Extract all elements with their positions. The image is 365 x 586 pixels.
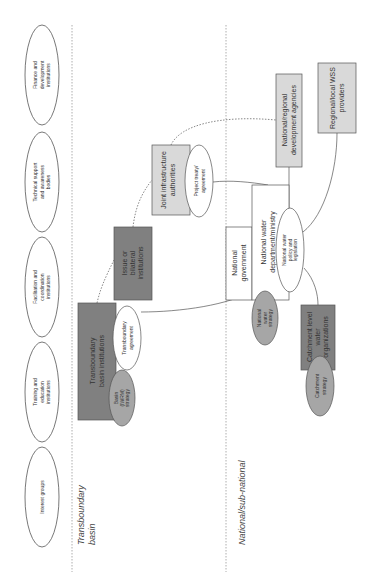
region-label-transboundary: Transboundary basin — [76, 485, 97, 545]
svg-text:water: water — [314, 328, 321, 347]
connector-policy-wss — [303, 133, 337, 232]
stakeholder-text: Interest groups — [39, 480, 45, 514]
stakeholder-facilitation: Facilitation and coordination institutio… — [25, 237, 59, 337]
svg-text:Catchment level: Catchment level — [306, 311, 313, 362]
svg-text:development agencies: development agencies — [290, 84, 298, 155]
node-national-regional-development-agencies: National/regional development agencies — [276, 74, 302, 167]
node-joint-infrastructure-authorities: Joint infrastructure authorities — [152, 145, 190, 215]
stakeholder-text: Facilitation and — [32, 270, 38, 304]
connector-project-dept — [213, 181, 268, 185]
node-catchment-strategy: Catchment strategy — [306, 356, 334, 416]
svg-text:agreement: agreement — [200, 168, 206, 193]
stakeholder-text: institutions — [45, 380, 51, 404]
svg-text:organizations: organizations — [322, 316, 330, 358]
node-national-water-strategy: National water strategy — [252, 291, 278, 345]
svg-text:strategy: strategy — [124, 389, 130, 407]
stakeholder-text: Training and — [32, 378, 38, 406]
stakeholder-text: education — [39, 381, 45, 403]
svg-text:strategy: strategy — [267, 309, 273, 327]
stakeholder-text: Technical support — [32, 162, 38, 202]
stakeholder-text: institutions — [45, 275, 51, 299]
svg-text:department/ministry: department/ministry — [269, 211, 277, 273]
governance-diagram: Finance and development institutions Tec… — [0, 0, 365, 586]
connector-dashed-issue-joint — [133, 180, 152, 227]
svg-text:National/sub-national: National/sub-national — [237, 459, 247, 545]
svg-text:Issue or: Issue or — [121, 250, 128, 276]
svg-text:strategy: strategy — [321, 377, 327, 395]
svg-text:providers: providers — [338, 83, 346, 112]
stakeholder-text: and awareness — [39, 165, 45, 199]
connector-dashed-joint-devagencies — [171, 119, 276, 145]
stakeholder-finance: Finance and development institutions — [25, 25, 59, 125]
svg-text:institutions: institutions — [137, 246, 144, 280]
svg-text:Joint infrastructure: Joint infrastructure — [160, 151, 167, 209]
region-label-national: National/sub-national — [237, 459, 247, 545]
node-basin-iwrm-strategy: Basin (IWRM) strategy — [109, 370, 135, 426]
svg-text:agreement: agreement — [128, 325, 134, 350]
svg-text:Catchment: Catchment — [314, 373, 320, 398]
stakeholder-technical: Technical support and awareness bodies — [25, 132, 59, 232]
node-transboundary-agreement: Transboundary agreement — [113, 306, 141, 370]
svg-text:Transboundary: Transboundary — [121, 321, 127, 355]
stakeholder-text: coordination — [39, 273, 45, 300]
svg-text:National/regional: National/regional — [281, 93, 289, 146]
stakeholder-text: institutions — [45, 63, 51, 87]
svg-text:Regional/local WSS: Regional/local WSS — [329, 67, 337, 129]
svg-text:basin: basin — [87, 523, 97, 545]
svg-text:government: government — [240, 244, 248, 281]
stakeholder-text: Finance and — [32, 61, 38, 89]
svg-text:Project treaty/: Project treaty/ — [193, 165, 199, 196]
node-issue-bilateral-institutions: Issue or bilateral institutions — [114, 227, 152, 300]
connector-policy-catchment — [304, 268, 318, 305]
stakeholder-text: bodies — [45, 174, 51, 189]
stakeholder-training: Training and education institutions — [25, 342, 59, 442]
node-project-treaty-agreement: Project treaty/ agreement — [185, 145, 213, 217]
node-national-water-policy: National water policy and legislation — [276, 208, 304, 292]
connector-dashed-tbi-issue — [97, 260, 114, 303]
svg-text:authorities: authorities — [169, 163, 176, 196]
stakeholder-interest-groups: Interest groups — [25, 447, 59, 547]
svg-text:bilateral: bilateral — [129, 250, 136, 275]
svg-text:Transboundary: Transboundary — [89, 337, 97, 384]
node-national-government: National government — [226, 227, 252, 300]
svg-text:National: National — [231, 250, 238, 276]
svg-text:National water: National water — [260, 219, 267, 264]
svg-text:legislation: legislation — [292, 239, 298, 261]
stakeholder-text: development — [39, 60, 45, 89]
node-regional-local-wss-providers: Regional/local WSS providers — [318, 63, 356, 133]
svg-text:Transboundary: Transboundary — [76, 485, 86, 545]
svg-text:basin institutions: basin institutions — [98, 335, 105, 387]
